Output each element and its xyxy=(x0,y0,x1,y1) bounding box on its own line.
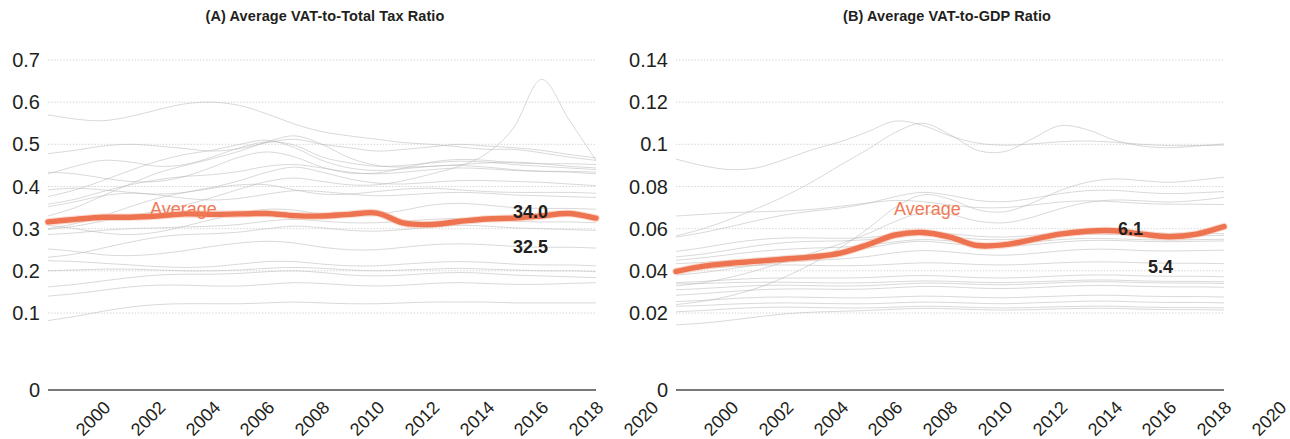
value-annotation: 5.4 xyxy=(1148,258,1173,276)
y-axis-tick-label: 0.6 xyxy=(0,92,40,112)
country-series-line xyxy=(48,102,596,160)
value-annotation: 32.5 xyxy=(513,238,548,256)
y-axis-tick-label: 0.04 xyxy=(628,261,668,281)
y-axis-tick-label: 0.7 xyxy=(0,50,40,70)
plot-canvas xyxy=(628,0,1256,439)
y-axis-tick-label: 0.1 xyxy=(0,303,40,323)
country-series-line xyxy=(48,139,596,158)
country-series-line xyxy=(48,261,596,268)
country-series-line xyxy=(676,285,1224,295)
country-series-line xyxy=(48,142,596,174)
y-axis-tick-label: 0 xyxy=(0,380,40,400)
y-axis-tick-label: 0.14 xyxy=(628,50,668,70)
panel-b-plot: 00.020.040.060.080.10.120.14200020022004… xyxy=(628,0,1256,439)
average-series-label: Average xyxy=(150,200,217,218)
average-series-label: Average xyxy=(894,200,961,218)
country-series-line xyxy=(48,152,596,182)
y-axis-tick-label: 0 xyxy=(628,380,668,400)
y-axis-tick-label: 0.5 xyxy=(0,134,40,154)
y-axis-tick-label: 0.08 xyxy=(628,177,668,197)
value-annotation: 34.0 xyxy=(513,203,548,221)
country-series-line xyxy=(676,295,1224,301)
country-series-line xyxy=(676,282,1224,290)
y-axis-tick-label: 0.06 xyxy=(628,219,668,239)
y-axis-tick-label: 0.2 xyxy=(0,261,40,281)
y-axis-tick-label: 0.4 xyxy=(0,177,40,197)
panel-a-plot: 00.10.20.30.40.50.60.7200020022004200620… xyxy=(0,0,628,439)
y-axis-tick-label: 0.3 xyxy=(0,219,40,239)
y-axis-tick-label: 0.12 xyxy=(628,92,668,112)
y-axis-tick-label: 0.02 xyxy=(628,303,668,323)
value-annotation: 6.1 xyxy=(1118,220,1143,238)
panel-b: (B) Average VAT-to-GDP Ratio 00.020.040.… xyxy=(628,0,1256,439)
country-series-line xyxy=(676,301,1224,306)
panel-a: (A) Average VAT-to-Total Tax Ratio 00.10… xyxy=(0,0,628,439)
country-series-line xyxy=(48,302,596,321)
country-series-line xyxy=(676,121,1224,170)
y-axis-tick-label: 0.1 xyxy=(628,134,668,154)
country-series-line xyxy=(676,308,1224,325)
country-series-line xyxy=(48,283,596,297)
